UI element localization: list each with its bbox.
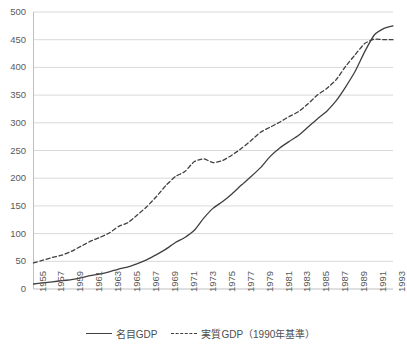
y-axis-tick-label: 0: [0, 284, 26, 294]
x-axis-tick-label: 1957: [56, 271, 66, 292]
legend-swatch-dashed-line-icon: [171, 333, 197, 335]
y-axis-tick-label: 250: [0, 146, 26, 156]
x-axis-tick-label: 1993: [397, 271, 407, 292]
x-axis-tick-label: 1979: [265, 271, 275, 292]
legend-item-real-gdp: 実質GDP（1990年基準）: [171, 326, 315, 341]
y-axis-tick-label: 500: [0, 7, 26, 17]
x-axis-tick-label: 1977: [246, 271, 256, 292]
y-axis-tick-label: 400: [0, 62, 26, 72]
legend-swatch-solid-line-icon: [86, 333, 112, 335]
x-axis-tick-label: 1955: [38, 271, 48, 292]
legend-label-real-gdp: 実質GDP（1990年基準）: [201, 326, 315, 341]
x-axis-tick-label: 1981: [284, 271, 294, 292]
y-axis-tick-label: 100: [0, 229, 26, 239]
chart-legend: 名目GDP 実質GDP（1990年基準）: [0, 326, 401, 341]
legend-item-nominal-gdp: 名目GDP: [86, 326, 158, 341]
series-line-real-gdp: [34, 39, 394, 263]
x-axis-tick-label: 1959: [75, 271, 85, 292]
x-axis-tick-label: 1975: [227, 271, 237, 292]
y-axis-tick-label: 350: [0, 90, 26, 100]
gridlines: [34, 12, 394, 289]
series-lines: [34, 26, 394, 284]
x-axis-tick-label: 1963: [113, 271, 123, 292]
y-axis-tick-label: 200: [0, 173, 26, 183]
x-axis-tick-label: 1965: [132, 271, 142, 292]
x-axis-tick-label: 1961: [94, 271, 104, 292]
series-line-nominal-gdp: [34, 26, 394, 284]
x-axis-tick-label: 1985: [321, 271, 331, 292]
y-axis-tick-label: 300: [0, 118, 26, 128]
x-axis-tick-label: 1971: [189, 271, 199, 292]
x-axis-tick-label: 1989: [359, 271, 369, 292]
legend-label-nominal-gdp: 名目GDP: [116, 326, 158, 341]
x-axis-tick-label: 1991: [378, 271, 388, 292]
x-axis-tick-label: 1967: [151, 271, 161, 292]
y-axis-tick-label: 150: [0, 201, 26, 211]
y-axis-tick-label: 450: [0, 35, 26, 45]
x-axis-tick-label: 1987: [340, 271, 350, 292]
x-axis-tick-label: 1983: [302, 271, 312, 292]
y-axis-tick-label: 50: [0, 256, 26, 266]
x-axis-tick-label: 1969: [170, 271, 180, 292]
x-axis-tick-label: 1973: [208, 271, 218, 292]
